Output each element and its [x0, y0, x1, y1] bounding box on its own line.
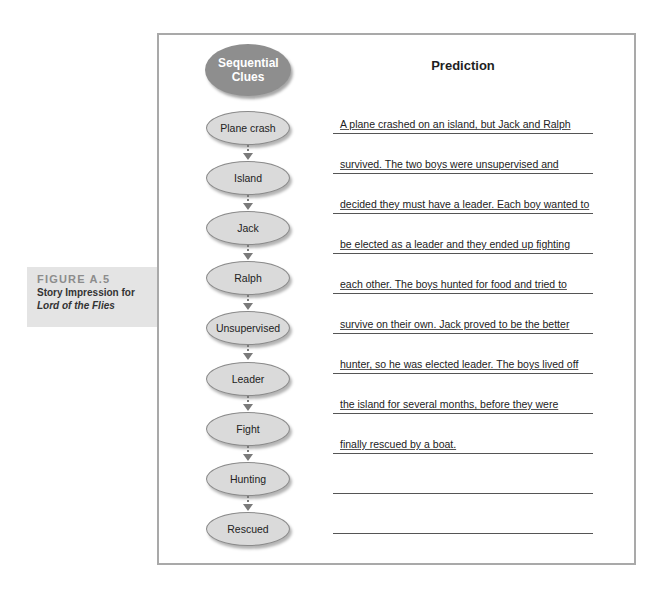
- prediction-line: survived. The two boys were unsupervised…: [333, 156, 593, 174]
- arrow-down-icon: [246, 245, 250, 261]
- clue-hunting: Hunting: [206, 462, 290, 496]
- prediction-line: each other. The boys hunted for food and…: [333, 276, 593, 294]
- prediction-line-blank: [333, 516, 593, 534]
- figure-title: Story Impression for: [37, 286, 157, 299]
- sequential-clues-header: Sequential Clues: [205, 44, 291, 96]
- clue-island: Island: [206, 161, 290, 195]
- prediction-line: finally rescued by a boat.: [333, 436, 593, 454]
- clue-unsupervised: Unsupervised: [206, 311, 290, 345]
- clue-leader: Leader: [206, 362, 290, 396]
- clue-jack: Jack: [206, 211, 290, 245]
- prediction-line: survive on their own. Jack proved to be …: [333, 316, 593, 334]
- arrow-down-icon: [246, 295, 250, 311]
- figure-title-book: Lord of the Flies: [37, 299, 157, 312]
- prediction-line: decided they must have a leader. Each bo…: [333, 196, 593, 214]
- arrow-down-icon: [246, 145, 250, 161]
- figure-caption: FIGURE A.5 Story Impression for Lord of …: [27, 267, 157, 327]
- prediction-line-blank: [333, 476, 593, 494]
- prediction-header: Prediction: [333, 58, 593, 73]
- arrow-down-icon: [246, 496, 250, 512]
- arrow-down-icon: [246, 195, 250, 211]
- clues-header-label: Sequential Clues: [218, 56, 278, 84]
- arrow-down-icon: [246, 396, 250, 412]
- arrow-down-icon: [246, 345, 250, 361]
- clue-plane-crash: Plane crash: [206, 111, 290, 145]
- prediction-line: the island for several months, before th…: [333, 396, 593, 414]
- prediction-line: hunter, so he was elected leader. The bo…: [333, 356, 593, 374]
- prediction-line: be elected as a leader and they ended up…: [333, 236, 593, 254]
- clue-fight: Fight: [206, 412, 290, 446]
- arrow-down-icon: [246, 446, 250, 462]
- clue-ralph: Ralph: [206, 261, 290, 295]
- clue-rescued: Rescued: [206, 512, 290, 546]
- figure-number: FIGURE A.5: [37, 273, 157, 286]
- prediction-line: A plane crashed on an island, but Jack a…: [333, 116, 593, 134]
